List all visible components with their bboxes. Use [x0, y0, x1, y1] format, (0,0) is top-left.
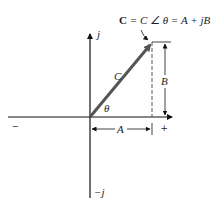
- equation-pointer: [141, 30, 148, 40]
- equation-label: C = C ∠ θ = A + jB: [119, 14, 211, 26]
- real-component-label: A: [116, 123, 124, 135]
- phasor-diagram: C = C ∠ θ = A + jB j −j + − C θ A B: [0, 0, 215, 214]
- negative-imaginary-label: −j: [94, 186, 104, 198]
- positive-imaginary-label: j: [95, 28, 100, 40]
- imag-component-label: B: [161, 75, 168, 87]
- positive-real-label: +: [161, 122, 167, 134]
- vector-label: C: [114, 70, 122, 82]
- negative-real-label: −: [12, 120, 18, 132]
- angle-label: θ: [104, 102, 110, 114]
